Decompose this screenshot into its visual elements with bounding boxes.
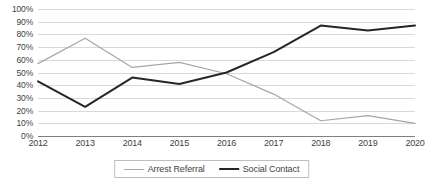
- x-tick-label: 2019: [358, 138, 377, 148]
- x-tick-label: 2014: [123, 138, 142, 148]
- y-axis-labels: 0%10%20%30%40%50%60%70%80%90%100%: [0, 9, 36, 136]
- x-tick-label: 2012: [28, 138, 47, 148]
- plot-area: [38, 9, 415, 136]
- legend-item-social-contact[interactable]: Social Contact: [219, 164, 300, 174]
- series-lines: [38, 9, 415, 136]
- x-tick-label: 2016: [217, 138, 236, 148]
- x-tick-label: 2015: [170, 138, 189, 148]
- x-tick-label: 2017: [264, 138, 283, 148]
- x-axis-line: [38, 136, 415, 137]
- legend-label: Arrest Referral: [148, 164, 205, 174]
- legend-line-swatch-icon: [124, 169, 144, 170]
- y-tick-label: 90%: [17, 17, 33, 27]
- x-tick-label: 2018: [311, 138, 330, 148]
- x-tick-label: 2013: [76, 138, 95, 148]
- y-tick-label: 30%: [17, 93, 33, 103]
- y-tick-label: 60%: [17, 55, 33, 65]
- legend-label: Social Contact: [243, 164, 300, 174]
- x-axis-labels: 201220132014201520162017201820192020: [38, 138, 415, 154]
- y-tick-label: 70%: [17, 42, 33, 52]
- y-tick-label: 100%: [12, 4, 33, 14]
- x-tick-label: 2020: [405, 138, 424, 148]
- series-line: [38, 26, 415, 107]
- y-tick-label: 80%: [17, 29, 33, 39]
- y-tick-label: 20%: [17, 106, 33, 116]
- chart-legend: Arrest Referral Social Contact: [114, 160, 310, 178]
- y-tick-label: 40%: [17, 80, 33, 90]
- y-tick-label: 50%: [17, 68, 33, 78]
- legend-line-swatch-icon: [219, 168, 239, 170]
- legend-item-arrest-referral[interactable]: Arrest Referral: [124, 164, 205, 174]
- series-line: [38, 38, 415, 123]
- y-tick-label: 10%: [17, 118, 33, 128]
